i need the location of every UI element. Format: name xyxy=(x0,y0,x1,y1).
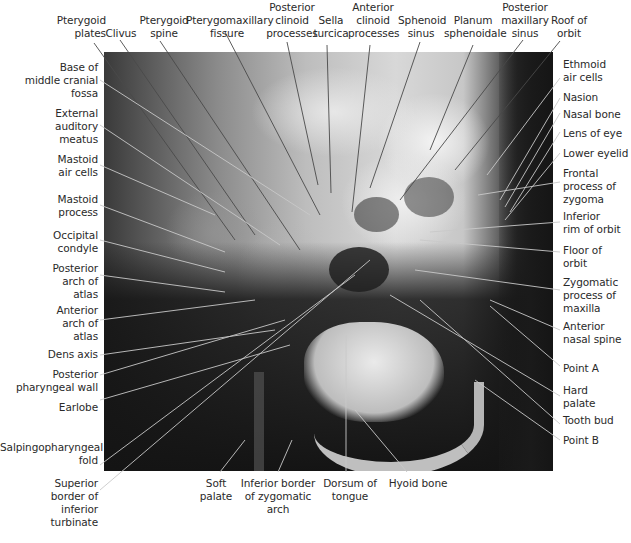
cervical-spine-shadow xyxy=(254,372,264,471)
label-external-auditory-meatus: External auditory meatus xyxy=(0,107,98,146)
label-lower-eyelid: Lower eyelid xyxy=(563,147,631,160)
label-frontal-process-of-zygoma: Frontal process of zygoma xyxy=(563,167,631,206)
label-roof-of-orbit: Roof of orbit xyxy=(548,14,590,40)
label-pterygoid-spine: Pterygoid spine xyxy=(136,14,192,40)
label-lens-of-eye: Lens of eye xyxy=(563,127,631,140)
orbit-shadow xyxy=(404,177,454,217)
label-mastoid-process: Mastoid process xyxy=(0,193,98,219)
label-posterior-maxillary-sinus: Posterior maxillary sinus xyxy=(500,1,550,40)
label-dorsum-of-tongue: Dorsum of tongue xyxy=(322,477,378,503)
label-nasal-bone: Nasal bone xyxy=(563,108,631,121)
label-tooth-bud: Tooth bud xyxy=(563,414,631,427)
label-base-of-middle-cranial-fossa: Base of middle cranial fossa xyxy=(0,61,98,100)
label-anterior-clinoid-processes: Anterior clinoid processes xyxy=(348,1,398,40)
label-clivus: Clivus xyxy=(104,27,138,40)
label-dens-axis: Dens axis xyxy=(0,348,98,361)
label-earlobe: Earlobe xyxy=(0,401,98,414)
radiograph-image xyxy=(104,52,553,471)
label-anterior-nasal-spine: Anterior nasal spine xyxy=(563,320,631,346)
label-sella-turcica: Sella turcica xyxy=(312,14,350,40)
label-mastoid-air-cells: Mastoid air cells xyxy=(0,153,98,179)
label-point-b: Point B xyxy=(563,434,631,447)
label-floor-of-orbit: Floor of orbit xyxy=(563,244,631,270)
label-hyoid-bone: Hyoid bone xyxy=(386,477,450,490)
label-posterior-clinoid-processes: Posterior clinoid processes xyxy=(266,1,318,40)
label-salpingopharyngeal-fold: Salpingopharyngeal fold xyxy=(0,441,98,467)
label-hard-palate: Hard palate xyxy=(563,384,631,410)
mandible-shadow xyxy=(314,382,484,471)
label-nasion: Nasion xyxy=(563,91,631,104)
radiograph-soft-tissue-profile xyxy=(499,52,553,471)
label-point-a: Point A xyxy=(563,362,631,375)
label-inferior-border-of-zygomatic-arch: Inferior border of zygomatic arch xyxy=(234,477,322,516)
label-anterior-arch-of-atlas: Anterior arch of atlas xyxy=(0,304,98,343)
label-soft-palate: Soft palate xyxy=(196,477,236,503)
label-inferior-rim-of-orbit: Inferior rim of orbit xyxy=(563,210,631,236)
label-pterygomaxillary-fissure: Pterygomaxillary fissure xyxy=(186,14,268,40)
label-superior-border-of-inferior-turbinate: Superior border of inferior turbinate xyxy=(0,477,98,529)
label-zygomatic-process-of-maxilla: Zygomatic process of maxilla xyxy=(563,276,631,315)
label-sphenoid-sinus: Sphenoid sinus xyxy=(398,14,444,40)
sphenoid-sinus-shadow xyxy=(354,197,399,232)
maxillary-sinus-shadow xyxy=(329,247,389,292)
label-planum-sphenoidale: Planum sphenoidale xyxy=(444,14,502,40)
label-ethmoid-air-cells: Ethmoid air cells xyxy=(563,58,631,84)
label-occipital-condyle: Occipital condyle xyxy=(0,229,98,255)
label-posterior-arch-of-atlas: Posterior arch of atlas xyxy=(0,262,98,301)
label-posterior-pharyngeal-wall: Posterior pharyngeal wall xyxy=(0,368,98,394)
label-pterygoid-plates: Pterygoid plates xyxy=(46,14,106,40)
